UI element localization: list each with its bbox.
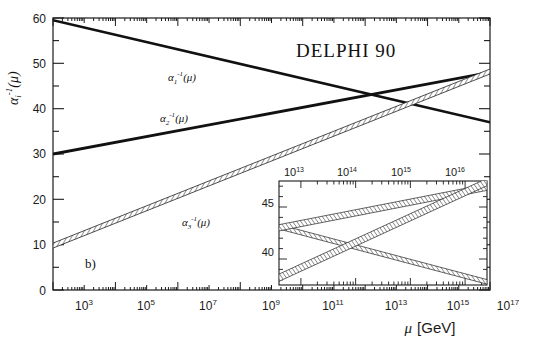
x-tick-base: 10: [262, 299, 276, 313]
y-axis-title-arg: (μ): [6, 71, 22, 88]
x-tick-exponent: 5: [150, 298, 155, 307]
x-tick-exponent: 17: [510, 298, 519, 307]
x-tick-base: 10: [75, 299, 89, 313]
x-tick-base: 10: [137, 299, 151, 313]
svg-text:μ[GeV]: μ[GeV]: [404, 319, 456, 336]
x-tick-base: 10: [322, 299, 336, 313]
x-axis-title-mu: μ: [404, 320, 413, 336]
chart-title: DELPHI 90: [296, 40, 396, 61]
inset-y-tick-40: 40: [262, 246, 274, 258]
y-tick-label: 60: [33, 12, 47, 26]
coupling-constants-plot: 60 50 40 30 20 10 0 αi-1(μ) 103 105 107 …: [0, 0, 534, 346]
x-tick-base: 10: [447, 299, 461, 313]
y-tick-label: 20: [33, 193, 47, 207]
y-tick-label: 10: [33, 238, 47, 252]
inset-plot: 1013 1014 1015 1016 45 40: [262, 166, 487, 285]
x-tick-exponent: 15: [460, 298, 469, 307]
y-tick-label: 30: [33, 147, 47, 161]
panel-label: b): [85, 256, 96, 271]
y-axis-title-sup: -1: [4, 88, 14, 96]
x-tick-base: 10: [385, 299, 399, 313]
figure-root: 60 50 40 30 20 10 0 αi-1(μ) 103 105 107 …: [0, 0, 534, 346]
y-tick-label: 0: [39, 284, 46, 298]
inset-y-tick-45: 45: [262, 197, 274, 209]
x-tick-base: 10: [199, 299, 213, 313]
x-tick-exponent: 11: [336, 298, 345, 307]
x-tick-base: 10: [497, 299, 511, 313]
x-tick-exponent: 9: [275, 298, 280, 307]
svg-text:αi-1(μ): αi-1(μ): [4, 71, 23, 105]
x-axis-title-unit: [GeV]: [417, 319, 455, 336]
y-tick-label: 50: [33, 57, 47, 71]
x-tick-exponent: 7: [212, 298, 217, 307]
x-tick-exponent: 13: [398, 298, 407, 307]
y-axis-title: αi-1(μ): [4, 71, 23, 105]
x-axis-title: μ[GeV]: [404, 319, 456, 336]
x-tick-exponent: 3: [88, 298, 93, 307]
y-tick-label: 40: [33, 102, 47, 116]
